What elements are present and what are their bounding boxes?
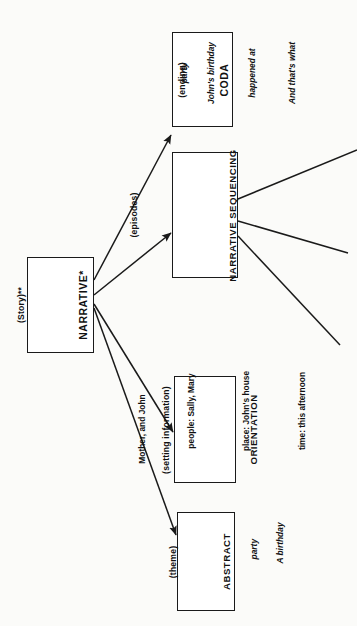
node-orientation-subtitle: (setting information) [160, 386, 170, 474]
coda-example-line-3: John's birthday [206, 42, 216, 104]
edge-episode-branch-1 [238, 150, 357, 199]
node-narrative-sequencing-subtitle: (episodes) [129, 193, 139, 238]
node-abstract-title: ABSTRACT [221, 533, 232, 590]
annotation-orientation-example: time: this afternoon place: John's house… [238, 378, 308, 486]
diagram-canvas: NARRATIVE* (Story)** CODA (ending) And t… [0, 0, 357, 626]
node-orientation[interactable]: ORIENTATION (setting information) [174, 376, 236, 483]
edge-narrative-to-narrative-sequencing [94, 233, 171, 295]
coda-example-line-4: party [179, 63, 189, 83]
coda-example-line-2: happened at [246, 48, 256, 97]
node-narrative[interactable]: NARRATIVE* (Story)** [27, 257, 94, 353]
edge-episode-branch-2 [238, 221, 348, 253]
edge-episode-branch-3 [238, 236, 340, 345]
orientation-time-line: time: this afternoon [297, 372, 307, 450]
annotation-coda-example: And that's what happened at John's birth… [236, 36, 298, 132]
orientation-people-line: people: Sally, Mary [186, 373, 196, 448]
node-narrative-subtitle: (Story)** [16, 287, 26, 323]
node-abstract[interactable]: ABSTRACT (theme) [177, 512, 235, 611]
abstract-example-line-1: A birthday [274, 522, 284, 563]
abstract-example-line-2: party [249, 527, 259, 560]
node-narrative-sequencing[interactable]: NARRATIVE SEQUENCING (episodes) [172, 152, 238, 278]
node-narrative-sequencing-title: NARRATIVE SEQUENCING [226, 149, 237, 281]
coda-example-line-1: And that's what [287, 42, 297, 104]
node-coda-title: CODA [219, 63, 231, 96]
node-narrative-title: NARRATIVE* [77, 270, 89, 340]
orientation-people-line-2: Mother, and John [137, 394, 147, 463]
annotation-abstract-example: A birthday party [238, 516, 278, 612]
orientation-place-line: place: John's house [241, 371, 251, 451]
node-abstract-subtitle: (theme) [168, 545, 178, 577]
